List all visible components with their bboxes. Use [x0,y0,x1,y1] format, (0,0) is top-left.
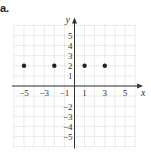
y-axis-label: y [65,14,71,25]
data-point [103,64,107,68]
y-tick-label: −5 [63,132,73,142]
data-point [52,64,56,68]
y-tick-label: −2 [63,102,73,112]
y-tick-label: 5 [68,31,73,41]
y-tick-label: −4 [63,122,73,132]
y-tick-label: 2 [68,61,73,71]
y-axis-arrow-icon [72,17,77,23]
x-tick-label: −1 [60,88,70,98]
y-tick-label: 4 [68,41,73,51]
x-tick-label: 1 [82,88,87,98]
x-tick-label: 3 [103,88,108,98]
x-tick-label: 5 [123,88,128,98]
x-tick-label: −3 [39,88,49,98]
data-point [82,64,86,68]
data-point [22,64,26,68]
y-tick-label: −3 [63,112,73,122]
x-axis-label: x [140,87,146,98]
x-tick-label: −5 [19,88,29,98]
y-tick-label: 1 [68,71,73,81]
y-tick-label: 3 [68,51,73,61]
coordinate-plane-chart: xy−5−3−113554321−2−3−4−5 [0,0,151,159]
